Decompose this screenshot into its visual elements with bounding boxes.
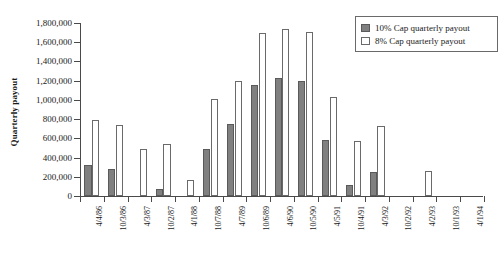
x-axis-tick: [104, 196, 105, 202]
bar-series-8-cap: [92, 120, 99, 196]
bar-series-10-cap: [251, 85, 258, 196]
x-axis-tick-label: 4/1/88: [190, 206, 199, 226]
bar-series-10-cap: [322, 140, 329, 196]
bar-series-8-cap: [425, 171, 432, 196]
bar-series-10-cap: [275, 78, 282, 196]
y-axis-tick-label: 1,800,000: [36, 18, 72, 28]
x-axis-tick-label: 10/2/92: [404, 206, 413, 230]
x-axis-tick: [151, 196, 152, 202]
x-axis-tick-label: 4/5/91: [333, 206, 342, 226]
filled-gray-swatch-icon: [361, 24, 370, 32]
x-axis-tick: [270, 196, 271, 202]
bar-series-10-cap: [203, 149, 210, 196]
x-axis-tick: [199, 196, 200, 202]
x-axis-tick-label: 4/2/93: [428, 206, 437, 226]
x-axis-tick: [436, 196, 437, 202]
bar-series-8-cap: [116, 125, 123, 196]
bar-series-8-cap: [377, 126, 384, 196]
bar-series-10-cap: [84, 165, 91, 196]
x-axis-tick-label: 10/1/93: [452, 206, 461, 230]
x-axis-tick-label: 4/1/94: [476, 206, 485, 226]
x-axis-tick-label: 10/7/88: [214, 206, 223, 230]
bar-series-8-cap: [211, 99, 218, 196]
bar-series-8-cap: [354, 141, 361, 196]
legend-item-series-1[interactable]: 10% Cap quarterly payout: [361, 21, 492, 34]
bar-series-8-cap: [282, 29, 289, 196]
x-axis-tick: [413, 196, 414, 202]
x-axis-tick: [80, 196, 81, 202]
bar-series-8-cap: [187, 180, 194, 196]
y-axis-tick-labels: 0200,000400,000600,000800,0001,000,0001,…: [0, 0, 72, 255]
y-axis-tick-label: 1,200,000: [36, 76, 72, 86]
x-axis-tick: [365, 196, 366, 202]
x-axis-tick-label: 4/3/87: [143, 206, 152, 226]
x-axis-tick: [246, 196, 247, 202]
x-axis-tick: [294, 196, 295, 202]
x-axis-tick: [341, 196, 342, 202]
y-axis-tick-label: 1,600,000: [36, 37, 72, 47]
x-axis-tick: [460, 196, 461, 202]
outline-white-swatch-icon: [361, 37, 370, 45]
x-axis-tick: [389, 196, 390, 202]
y-axis-tick-label: 1,000,000: [36, 95, 72, 105]
x-axis-tick: [128, 196, 129, 202]
bar-series-10-cap: [227, 124, 234, 196]
x-axis-tick: [318, 196, 319, 202]
x-axis-tick: [175, 196, 176, 202]
legend-item-label: 10% Cap quarterly payout: [375, 23, 470, 33]
x-axis-tick-label: 4/4/86: [95, 206, 104, 226]
x-axis-tick-label: 10/4/91: [357, 206, 366, 230]
bar-series-10-cap: [156, 189, 163, 196]
bar-series-8-cap: [163, 144, 170, 196]
y-axis-tick-label: 1,400,000: [36, 56, 72, 66]
bar-series-10-cap: [108, 169, 115, 196]
bar-series-10-cap: [370, 172, 377, 196]
y-axis-tick-label: 400,000: [43, 153, 72, 163]
x-axis-line: [80, 196, 483, 197]
chart-legend: 10% Cap quarterly payout 8% Cap quarterl…: [355, 16, 498, 52]
x-axis-tick-label: 4/3/92: [381, 206, 390, 226]
bar-series-8-cap: [140, 149, 147, 196]
bar-chart: Quarterly payout 0200,000400,000600,0008…: [0, 0, 504, 255]
legend-item-series-2[interactable]: 8% Cap quarterly payout: [361, 34, 492, 47]
x-axis-tick-label: 4/7/89: [238, 206, 247, 226]
bar-series-8-cap: [259, 33, 266, 196]
x-axis-tick-label: 10/3/86: [119, 206, 128, 230]
bar-series-8-cap: [235, 81, 242, 196]
x-axis-tick-label: 10/5/90: [309, 206, 318, 230]
y-axis-tick-label: 600,000: [43, 133, 72, 143]
x-axis-tick-label: 10/6/89: [262, 206, 271, 230]
bar-series-8-cap: [330, 97, 337, 196]
x-axis-tick: [223, 196, 224, 202]
bar-series-8-cap: [306, 32, 313, 196]
legend-item-label: 8% Cap quarterly payout: [375, 36, 465, 46]
x-axis-tick-label: 10/2/87: [167, 206, 176, 230]
x-axis-tick: [484, 196, 485, 202]
x-axis-tick-label: 4/6/90: [286, 206, 295, 226]
y-axis-tick-label: 0: [68, 191, 73, 201]
y-axis-tick-label: 800,000: [43, 114, 72, 124]
y-axis-tick-label: 200,000: [43, 172, 72, 182]
bar-series-10-cap: [298, 81, 305, 196]
bar-series-10-cap: [346, 185, 353, 196]
